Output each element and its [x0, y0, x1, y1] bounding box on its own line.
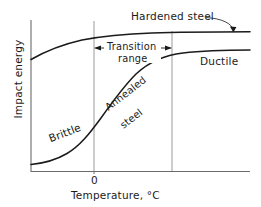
hardened-steel-label: Hardened steel — [131, 10, 214, 22]
ductile-label: Ductile — [200, 55, 238, 67]
x-axis-zero-tick-label: 0 — [91, 174, 98, 186]
transition-range-label-line1: Transition — [107, 41, 156, 52]
transition-range-arrow-left-head — [94, 45, 101, 50]
chart-plot-area — [0, 0, 261, 207]
y-axis-label: Impact energy — [12, 34, 24, 124]
transition-range-label-line2: range — [118, 53, 148, 64]
impact-energy-transition-chart: Hardened steel Transition range Ductile … — [0, 0, 261, 207]
x-axis-label: Temperature, °C — [71, 189, 160, 201]
transition-range-arrow-right-head — [165, 45, 172, 50]
annealed-steel-curve — [31, 50, 250, 164]
